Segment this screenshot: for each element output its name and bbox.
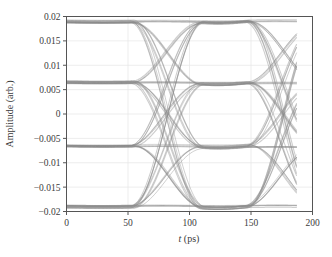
y-tick-label: 0.02 bbox=[44, 12, 61, 22]
x-axis-label: t (ps) bbox=[179, 233, 200, 245]
y-tick-label: 0.005 bbox=[39, 85, 61, 95]
x-tick-label: 0 bbox=[64, 218, 69, 228]
y-tick-label: 0.015 bbox=[39, 36, 61, 46]
eye-diagram-figure: 050100150200 −0.02−0.015−0.01−0.00500.00… bbox=[0, 0, 332, 257]
y-tick-label: 0 bbox=[56, 109, 61, 119]
x-tick-label: 200 bbox=[305, 218, 320, 228]
y-tick-label: −0.02 bbox=[39, 207, 61, 217]
x-tick-label: 150 bbox=[244, 218, 259, 228]
x-tick-label: 100 bbox=[182, 218, 197, 228]
y-tick-label: −0.015 bbox=[34, 183, 61, 193]
y-tick-label: −0.01 bbox=[39, 158, 61, 168]
y-axis-label: Amplitude (arb.) bbox=[4, 80, 16, 147]
y-tick-label: −0.005 bbox=[34, 134, 61, 144]
chart-canvas: 050100150200 −0.02−0.015−0.01−0.00500.00… bbox=[0, 0, 332, 257]
y-tick-label: 0.01 bbox=[44, 61, 61, 71]
x-tick-label: 50 bbox=[123, 218, 133, 228]
